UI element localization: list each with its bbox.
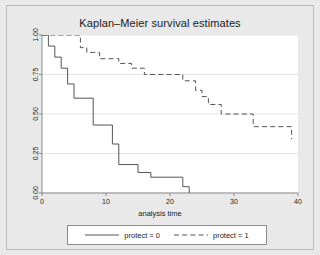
y-tick-label: 1.00 bbox=[32, 28, 39, 42]
legend: protect = 0 protect = 1 bbox=[67, 225, 267, 245]
x-tick-label: 30 bbox=[230, 198, 238, 205]
y-tick-label: 0.00 bbox=[32, 186, 39, 200]
legend-entry-protect-1: protect = 1 bbox=[174, 231, 249, 240]
legend-swatch-dashed bbox=[174, 231, 208, 239]
y-tick-label: 0.75 bbox=[32, 68, 39, 82]
x-tick-label: 0 bbox=[40, 198, 44, 205]
legend-swatch-solid bbox=[85, 231, 119, 239]
y-tick-label: 0.50 bbox=[32, 107, 39, 121]
figure-border: Kaplan–Meier survival estimates 0.000.25… bbox=[6, 5, 314, 250]
legend-label-protect-0: protect = 0 bbox=[124, 231, 160, 240]
x-axis-label: analysis time bbox=[7, 209, 313, 218]
x-tick-label: 20 bbox=[166, 198, 174, 205]
figure: Kaplan–Meier survival estimates 0.000.25… bbox=[0, 0, 320, 255]
legend-label-protect-1: protect = 1 bbox=[213, 231, 249, 240]
y-tick-label: 0.25 bbox=[32, 147, 39, 161]
legend-entry-protect-0: protect = 0 bbox=[85, 231, 160, 240]
x-tick-label: 10 bbox=[102, 198, 110, 205]
x-tick-label: 40 bbox=[294, 198, 302, 205]
